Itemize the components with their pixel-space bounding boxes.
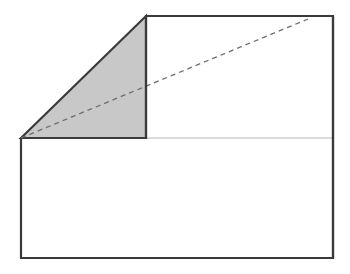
geometry-figure xyxy=(0,0,350,274)
lower-rectangle-fill xyxy=(21,138,333,258)
upper-rectangle-fill xyxy=(146,16,333,138)
figure-stage xyxy=(0,0,350,274)
